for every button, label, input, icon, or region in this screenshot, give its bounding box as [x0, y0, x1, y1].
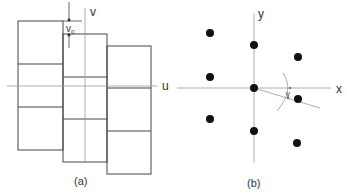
offset-label: v0	[66, 23, 75, 35]
u-axis-label: u	[162, 79, 169, 93]
angle-label: γ	[286, 89, 290, 98]
y-axis-label: y	[258, 7, 264, 21]
v-axis-label: v	[90, 5, 96, 19]
dot	[250, 127, 258, 135]
dot	[206, 73, 214, 81]
dot	[206, 115, 214, 123]
figure: v u v0 (a) y x γ (b)	[0, 0, 347, 196]
column-1	[18, 21, 63, 150]
dot	[293, 139, 301, 147]
dot	[206, 29, 214, 37]
axes-a	[7, 8, 157, 162]
dot	[250, 84, 258, 92]
column-3	[107, 46, 151, 174]
caption-a: (a)	[74, 175, 87, 187]
caption-b: (b)	[247, 177, 260, 189]
x-axis-label: x	[336, 82, 342, 96]
dot	[294, 53, 302, 61]
panel-a	[18, 21, 151, 174]
dot	[294, 95, 302, 103]
dot	[250, 41, 258, 49]
